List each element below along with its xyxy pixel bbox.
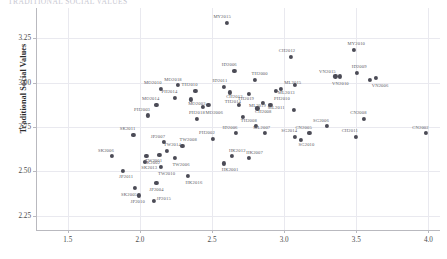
point-label: CN2008 [350,110,366,115]
scatter-point[interactable] [131,133,135,137]
point-label: CH2011 [342,128,358,133]
scatter-point[interactable] [263,131,267,135]
y-tick-mark [33,171,36,172]
scatter-point[interactable] [368,78,372,82]
x-tick-label: 1.5 [63,236,72,244]
scatter-point[interactable] [355,71,359,75]
y-tick-label: 2.50 [7,167,31,175]
point-label: CN2005 [295,124,311,129]
scatter-point[interactable] [154,181,158,185]
y-tick-label: 2.75 [7,123,31,131]
scatter-point[interactable] [133,186,137,190]
x-tick-label: 4.0 [424,236,433,244]
point-label: SK2002 [144,160,160,165]
point-label: PH2014 [161,89,177,94]
scatter-point[interactable] [247,156,251,160]
point-label: TH2000 [252,71,268,76]
gridline-vertical [284,8,285,230]
scatter-point[interactable] [289,55,293,59]
point-label: SG2010 [299,142,315,147]
point-label: PH2002 [199,129,215,134]
plot-area: MY2015MY2010CH2012ID2006VN2015VN2010ID20… [36,8,440,230]
scatter-point[interactable] [232,69,236,73]
y-tick-label: 3.25 [7,34,31,42]
point-label: HK2007 [246,149,263,154]
scatter-point[interactable] [195,117,199,121]
point-label: PH2010 [274,96,290,101]
x-axis-line [36,230,440,231]
point-label: PH2018 [189,110,205,115]
scatter-point[interactable] [362,117,366,121]
clipped-title: TRADITIONAL SOCIAL VALUES [8,0,238,4]
scatter-point[interactable] [229,154,233,158]
scatter-point[interactable] [193,88,197,92]
gridline-horizontal [36,127,440,128]
scatter-point[interactable] [157,152,161,156]
point-label: ML2019 [249,103,266,108]
scatter-point[interactable] [110,154,114,158]
scatter-point[interactable] [173,96,177,100]
point-label: ID2006 [223,124,238,129]
point-label: PH2003 [134,106,150,111]
point-label: MY2010 [348,40,366,45]
point-label: TH2008 [241,117,257,122]
scatter-point[interactable] [176,83,180,87]
x-tick-mark [428,230,429,233]
scatter-point[interactable] [180,144,184,148]
point-label: MO2006 [205,110,223,115]
scatter-point[interactable] [154,103,158,107]
scatter-point[interactable] [186,174,190,178]
scatter-point[interactable] [173,156,177,160]
scatter-point[interactable] [159,165,163,169]
y-tick-label: 3.00 [7,79,31,87]
point-label: JP2011 [119,174,133,179]
point-label: TW2014 [164,142,181,147]
scatter-point[interactable] [234,131,238,135]
x-tick-mark [140,230,141,233]
x-tick-mark [284,230,285,233]
scatter-point[interactable] [374,76,378,80]
point-label: ML2015 [284,79,301,84]
point-label: TW2010 [158,170,175,175]
y-tick-mark [33,127,36,128]
scatter-point[interactable] [222,85,226,89]
chart-root: TRADITIONAL SOCIAL VALUES Traditional So… [0,0,447,259]
scatter-point[interactable] [225,21,229,25]
y-tick-mark [33,83,36,84]
x-tick-mark [68,230,69,233]
scatter-point[interactable] [307,131,311,135]
scatter-point[interactable] [293,135,297,139]
y-tick-label: 2.25 [7,212,31,220]
gridline-horizontal [36,216,440,217]
scatter-point[interactable] [206,103,210,107]
point-label: MY2015 [213,13,231,18]
point-label: HK2001 [222,167,239,172]
point-label: MO2018 [164,76,182,81]
x-tick-label: 3.0 [280,236,289,244]
scatter-point[interactable] [151,199,155,203]
scatter-point[interactable] [291,108,295,112]
point-label: TH2010 [182,82,198,87]
y-tick-mark [33,216,36,217]
point-label: CH2008 [255,108,271,113]
point-label: JP2015 [156,195,170,200]
point-label: ID2011 [213,78,228,83]
point-label: CH2012 [279,47,295,52]
point-label: SK2006 [98,147,114,152]
scatter-point[interactable] [164,149,168,153]
point-label: ID2006 [222,61,237,66]
gridline-vertical [68,8,69,230]
point-label: MO2003 [188,101,206,106]
point-label: TW2008 [180,137,197,142]
scatter-point[interactable] [338,74,342,78]
point-label: SG2006 [313,117,329,122]
scatter-point[interactable] [146,113,150,117]
scatter-point[interactable] [252,78,256,82]
scatter-point[interactable] [211,136,215,140]
gridline-vertical [428,8,429,230]
x-tick-label: 3.5 [352,236,361,244]
x-tick-label: 2.5 [208,236,217,244]
gridline-vertical [212,8,213,230]
x-tick-label: 2.0 [135,236,144,244]
scatter-point[interactable] [222,161,226,165]
